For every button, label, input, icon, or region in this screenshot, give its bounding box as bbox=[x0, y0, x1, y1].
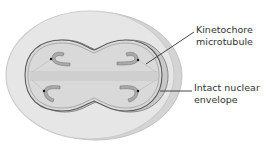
label-line: microtubule bbox=[196, 36, 253, 48]
mitosis-diagram bbox=[0, 0, 272, 149]
label-line: Intact nuclear bbox=[194, 82, 260, 94]
nuclear-envelope-label: Intact nuclear envelope bbox=[194, 82, 260, 106]
label-line: envelope bbox=[194, 94, 260, 106]
label-line: Kinetochore bbox=[196, 24, 253, 36]
kinetochore-microtubule-label: Kinetochore microtubule bbox=[196, 24, 253, 48]
nuclear-envelope bbox=[25, 40, 162, 111]
